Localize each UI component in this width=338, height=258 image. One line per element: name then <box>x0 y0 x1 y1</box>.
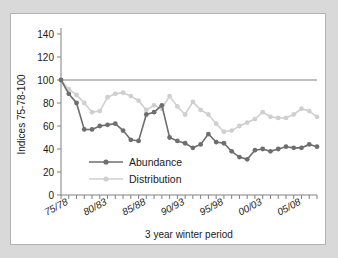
data-point <box>260 110 265 115</box>
data-point <box>276 147 281 152</box>
data-point <box>245 157 250 162</box>
y-tick-label: 100 <box>37 75 54 86</box>
data-point <box>97 124 102 129</box>
data-point <box>121 128 126 133</box>
data-point <box>268 149 273 154</box>
data-point <box>253 117 258 122</box>
line-chart[interactable]: 020406080100120140 75/7880/8385/8890/939… <box>11 14 325 244</box>
x-tick-label: 75/78 <box>42 196 70 218</box>
data-point <box>214 140 219 145</box>
data-point <box>128 137 133 142</box>
data-point <box>152 110 157 115</box>
y-tick-label: 40 <box>43 144 55 155</box>
x-tick-label: 00/03 <box>236 196 264 218</box>
data-point <box>82 127 87 132</box>
data-point <box>229 128 234 133</box>
data-point <box>237 155 242 160</box>
x-tick-label: 95/98 <box>198 196 226 218</box>
data-point <box>299 106 304 111</box>
data-point <box>128 94 133 99</box>
data-point <box>121 90 126 95</box>
data-point <box>74 93 79 98</box>
data-point <box>167 135 172 140</box>
x-tick-label: 05/08 <box>275 196 303 218</box>
x-tick-labels: 75/7880/8385/8890/9395/9800/0305/08 <box>42 196 302 218</box>
data-point <box>136 98 141 103</box>
data-point <box>167 94 172 99</box>
data-point <box>175 139 180 144</box>
data-point <box>291 112 296 117</box>
data-point <box>253 148 258 153</box>
x-tick-label: 90/93 <box>159 196 187 218</box>
data-point <box>190 99 195 104</box>
data-point <box>90 110 95 115</box>
data-point <box>307 109 312 114</box>
data-point <box>222 141 227 146</box>
data-point <box>74 101 79 106</box>
data-point <box>206 132 211 137</box>
y-tick-label: 0 <box>48 190 54 201</box>
y-axis-ticks <box>57 34 61 195</box>
data-point <box>105 122 110 127</box>
legend-item-abundance[interactable]: Abundance <box>89 156 182 168</box>
y-tick-label: 140 <box>37 29 54 40</box>
legend-label: Distribution <box>129 173 182 185</box>
y-tick-label: 20 <box>43 167 55 178</box>
data-point <box>315 114 320 119</box>
data-point <box>66 91 71 96</box>
data-point <box>82 101 87 106</box>
data-point <box>315 144 320 149</box>
data-point <box>159 103 164 108</box>
data-point <box>198 108 203 113</box>
data-point <box>222 129 227 134</box>
data-point <box>59 78 64 83</box>
data-point <box>144 112 149 117</box>
y-tick-label: 60 <box>43 121 55 132</box>
x-tick-label: 80/83 <box>81 196 109 218</box>
data-point <box>206 112 211 117</box>
data-point <box>284 144 289 149</box>
data-point <box>105 95 110 100</box>
legend-label: Abundance <box>129 156 182 168</box>
data-point <box>245 120 250 125</box>
data-point <box>229 149 234 154</box>
data-point <box>144 108 149 113</box>
chart-series-group[interactable] <box>59 78 320 162</box>
y-axis-title: Indices 75-78-100 <box>16 74 27 154</box>
chart-figure-frame: 020406080100120140 75/7880/8385/8890/939… <box>10 13 326 245</box>
data-point <box>237 124 242 129</box>
data-point <box>113 91 118 96</box>
data-point <box>152 103 157 108</box>
data-point <box>299 145 304 150</box>
chart-legend[interactable]: AbundanceDistribution <box>89 156 182 185</box>
data-point <box>97 109 102 114</box>
series-abundance[interactable] <box>59 78 320 162</box>
data-point <box>307 142 312 147</box>
data-point <box>284 116 289 121</box>
data-point <box>90 127 95 132</box>
data-point <box>214 121 219 126</box>
data-point <box>183 112 188 117</box>
y-tick-labels: 020406080100120140 <box>37 29 54 201</box>
x-tick-label: 85/88 <box>120 196 148 218</box>
data-point <box>198 142 203 147</box>
data-point <box>175 104 180 109</box>
data-point <box>268 114 273 119</box>
data-point <box>190 145 195 150</box>
legend-item-distribution[interactable]: Distribution <box>89 173 182 185</box>
y-tick-label: 120 <box>37 52 54 63</box>
data-point <box>113 121 118 126</box>
data-point <box>183 141 188 146</box>
data-point <box>291 145 296 150</box>
x-axis-title: 3 year winter period <box>145 229 233 240</box>
y-tick-label: 80 <box>43 98 55 109</box>
data-point <box>260 147 265 152</box>
data-point <box>136 139 141 144</box>
data-point <box>276 116 281 121</box>
